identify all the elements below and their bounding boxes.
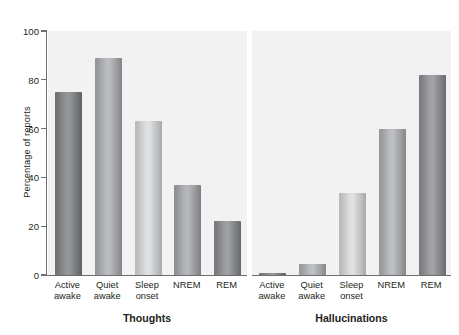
x-axis-category-label: Sleeponset [125,280,169,303]
y-axis-tick-label: 100 [0,26,39,37]
panel-title-hallucinations: Hallucinations [252,312,451,324]
category-label-line: Sleep [330,280,374,291]
category-label-line: Quiet [85,280,129,291]
category-label-line: awake [290,291,334,302]
x-axis-category-label: NREM [369,280,413,291]
category-label-line: REM [205,280,249,291]
category-label-line: NREM [369,280,413,291]
x-axis-category-label: NREM [165,280,209,291]
category-label-line: awake [45,291,89,302]
x-axis-category-label: REM [205,280,249,291]
x-axis-category-label: Quietawake [290,280,334,303]
bar-thoughts-rem [214,221,241,275]
y-axis-tick-label: 40 [0,172,39,183]
y-axis-tick-label: 80 [0,74,39,85]
x-axis-category-label: REM [409,280,453,291]
category-label-line: Sleep [125,280,169,291]
y-axis-tick [41,79,47,80]
bar-hallucinations-nrem [379,129,406,275]
plot-panel-thoughts [48,31,247,275]
bar-hallucinations-quiet-awake [299,264,326,275]
category-label-line: Active [250,280,294,291]
bar-thoughts-quiet-awake [95,58,122,275]
x-axis-line-hallucinations [252,275,451,276]
x-axis-line-thoughts [46,275,247,276]
category-label-line: REM [409,280,453,291]
y-axis-title: Percentage of reports [22,62,32,242]
y-axis-tick [41,177,47,178]
x-axis-category-label: Activeawake [45,280,89,303]
chart-figure: Percentage of reports 020406080100 Activ… [0,0,459,335]
category-label-line: Quiet [290,280,334,291]
bar-thoughts-nrem [174,185,201,275]
category-label-line: awake [85,291,129,302]
bar-hallucinations-rem [419,75,446,275]
category-label-line: onset [125,291,169,302]
bar-thoughts-active-awake [55,92,82,275]
plot-panel-hallucinations [252,31,451,275]
panel-title-thoughts: Thoughts [47,312,247,324]
x-axis-category-label: Quietawake [85,280,129,303]
category-label-line: awake [250,291,294,302]
bar-hallucinations-sleep-onset [339,193,366,275]
y-axis-tick-label: 0 [0,270,39,281]
x-axis-category-label: Sleeponset [330,280,374,303]
category-label-line: NREM [165,280,209,291]
y-axis-tick [41,128,47,129]
bar-thoughts-sleep-onset [135,121,162,275]
y-axis-tick [41,226,47,227]
y-axis-tick [41,30,47,31]
category-label-line: onset [330,291,374,302]
x-axis-category-label: Activeawake [250,280,294,303]
y-axis-tick-label: 20 [0,221,39,232]
y-axis-tick-label: 60 [0,123,39,134]
category-label-line: Active [45,280,89,291]
